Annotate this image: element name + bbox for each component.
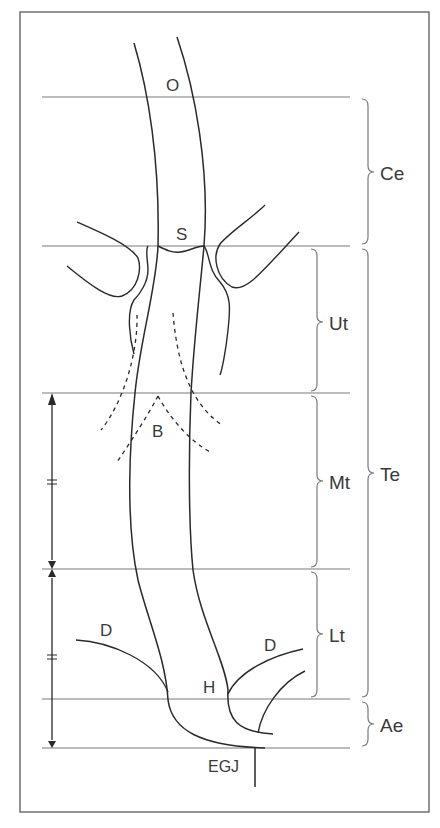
label-Mt: Mt	[329, 472, 351, 493]
brace-Te	[362, 249, 374, 697]
arrow-down-icon	[48, 741, 56, 748]
label-Ae: Ae	[380, 715, 403, 736]
left-upper-structure	[67, 222, 139, 297]
brace-Mt	[311, 396, 323, 567]
braces	[311, 99, 374, 746]
label-Te: Te	[380, 464, 400, 485]
brace-Ut	[311, 249, 323, 391]
label-D-left: D	[100, 621, 112, 640]
bronchus-left-dash	[101, 315, 137, 430]
label-Ce: Ce	[380, 163, 404, 184]
esophagus-left-wall	[130, 43, 265, 748]
diaphragm-right	[228, 649, 303, 694]
esophagus-right-wall	[177, 37, 273, 734]
esophagus-diagram: O S B D D H EGJ Ce Ut Mt Lt Te Ae	[0, 0, 440, 828]
label-S: S	[176, 225, 187, 244]
level-lines	[42, 97, 350, 748]
measurement-arrow	[47, 393, 57, 748]
bronchus-right-dash	[173, 313, 222, 425]
arrow-down-icon	[48, 561, 56, 569]
diaphragm-left	[76, 640, 168, 692]
diaphragm-right-lower	[258, 671, 305, 733]
label-D-right: D	[264, 636, 276, 655]
bifurcation-right-dash	[158, 396, 210, 452]
label-O: O	[166, 76, 179, 95]
label-Ut: Ut	[329, 313, 349, 334]
brace-Lt	[311, 572, 323, 697]
arrow-up-icon	[48, 393, 56, 405]
label-EGJ: EGJ	[208, 758, 239, 775]
arrow-up-icon	[48, 569, 56, 577]
esophagus-outline	[130, 37, 273, 787]
label-B: B	[152, 422, 163, 441]
brace-Ce	[362, 99, 374, 244]
label-H: H	[203, 678, 215, 697]
label-Lt: Lt	[329, 625, 346, 646]
sphincter-contour	[158, 246, 204, 252]
brace-Ae	[362, 702, 374, 746]
